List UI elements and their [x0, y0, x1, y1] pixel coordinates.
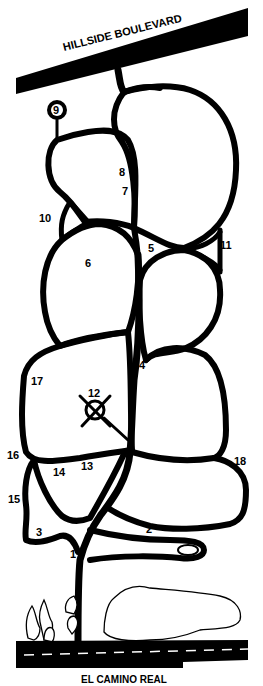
section-label-8[interactable]: 8 — [119, 166, 125, 178]
road-network — [22, 70, 246, 644]
section-label-9[interactable]: 9 — [53, 104, 59, 116]
section-label-14[interactable]: 14 — [53, 466, 66, 478]
section-label-12[interactable]: 12 — [88, 387, 100, 399]
section-label-6[interactable]: 6 — [85, 257, 91, 269]
section-12-marker — [80, 396, 128, 440]
section-label-17[interactable]: 17 — [31, 375, 43, 387]
section-label-4[interactable]: 4 — [139, 359, 146, 371]
section-label-5[interactable]: 5 — [148, 242, 154, 254]
section-label-13[interactable]: 13 — [81, 460, 93, 472]
section-label-3[interactable]: 3 — [36, 526, 42, 538]
section-label-1[interactable]: 1 — [70, 548, 76, 560]
section-label-7[interactable]: 7 — [122, 185, 128, 197]
el-camino-real-label: EL CAMINO REAL — [81, 674, 167, 685]
hillside-boulevard-road: HILLSIDE BOULEVARD — [16, 8, 248, 94]
section-label-15[interactable]: 15 — [8, 493, 20, 505]
section-label-18[interactable]: 18 — [234, 455, 246, 467]
section-map: HILLSIDE BOULEVARD — [0, 0, 263, 686]
section-label-2[interactable]: 2 — [146, 523, 152, 535]
section-label-10[interactable]: 10 — [39, 212, 51, 224]
section-label-11[interactable]: 11 — [220, 239, 232, 251]
el-camino-real-road: EL CAMINO REAL — [16, 640, 248, 685]
section-label-16[interactable]: 16 — [7, 449, 19, 461]
trees-decoration — [26, 586, 240, 642]
